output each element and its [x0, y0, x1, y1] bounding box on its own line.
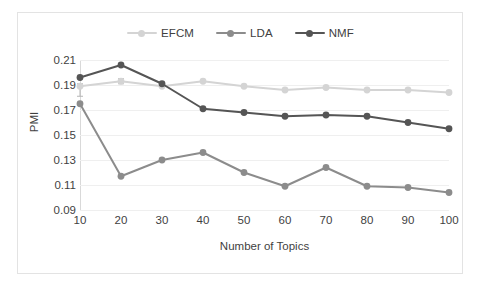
- legend-item-efcm[interactable]: EFCM: [127, 27, 194, 39]
- series-line: [80, 104, 449, 193]
- data-point: [241, 169, 248, 176]
- y-axis-tick-labels: 0.210.190.170.150.130.110.09: [34, 60, 76, 210]
- legend-item-nmf[interactable]: NMF: [295, 27, 354, 39]
- data-point: [405, 184, 412, 191]
- data-point: [200, 78, 207, 85]
- series-nmf: [77, 62, 453, 133]
- data-point: [159, 157, 166, 164]
- data-point: [364, 113, 371, 120]
- data-point: [241, 83, 248, 90]
- data-point: [200, 105, 207, 112]
- x-axis-tick-label: 60: [265, 214, 305, 226]
- data-point: [200, 149, 207, 156]
- x-axis-tick-label: 50: [224, 214, 264, 226]
- x-axis-tick-labels: 102030405060708090100: [80, 214, 449, 232]
- series-efcm: [77, 78, 453, 96]
- series-svg: [80, 60, 449, 210]
- x-axis-tick-label: 30: [142, 214, 182, 226]
- data-point: [405, 87, 412, 94]
- data-point: [118, 173, 125, 180]
- data-point: [405, 119, 412, 126]
- data-point: [323, 112, 330, 119]
- x-axis-tick-label: 70: [306, 214, 346, 226]
- data-point: [77, 74, 84, 81]
- y-axis-tick-label: 0.17: [38, 104, 76, 116]
- data-point: [159, 80, 166, 87]
- data-point: [364, 87, 371, 94]
- x-axis-tick-label: 80: [347, 214, 387, 226]
- pmi-line-chart: EFCMLDANMF 0.210.190.170.150.130.110.09 …: [0, 0, 481, 286]
- data-point: [118, 78, 125, 85]
- plot-area: [80, 60, 449, 210]
- data-point: [323, 164, 330, 171]
- x-axis-title: Number of Topics: [80, 240, 449, 252]
- gridline: [80, 210, 449, 211]
- series-line: [80, 81, 449, 92]
- legend-swatch-icon: [127, 28, 157, 38]
- data-point: [118, 62, 125, 69]
- data-point: [77, 100, 84, 107]
- x-axis-tick-label: 20: [101, 214, 141, 226]
- x-axis-tick-label: 10: [60, 214, 100, 226]
- x-axis-tick-label: 40: [183, 214, 223, 226]
- data-point: [323, 84, 330, 91]
- data-point: [241, 109, 248, 116]
- y-axis-title: PMI: [28, 112, 40, 132]
- y-axis-tick-label: 0.19: [38, 79, 76, 91]
- legend-label: EFCM: [161, 27, 194, 39]
- legend-swatch-icon: [295, 28, 325, 38]
- data-point: [282, 87, 289, 94]
- legend-swatch-icon: [216, 28, 246, 38]
- y-axis-tick-label: 0.11: [38, 179, 76, 191]
- data-point: [77, 83, 84, 90]
- data-point: [446, 125, 453, 132]
- y-axis-tick-label: 0.21: [38, 54, 76, 66]
- legend-label: NMF: [329, 27, 354, 39]
- x-axis-tick-label: 90: [388, 214, 428, 226]
- x-axis-tick-label: 100: [429, 214, 469, 226]
- data-point: [446, 89, 453, 96]
- data-point: [282, 113, 289, 120]
- chart-legend: EFCMLDANMF: [0, 24, 481, 42]
- data-point: [364, 183, 371, 190]
- data-point: [446, 189, 453, 196]
- series-line: [80, 65, 449, 129]
- data-point: [282, 183, 289, 190]
- y-axis-tick-label: 0.13: [38, 154, 76, 166]
- legend-item-lda[interactable]: LDA: [216, 27, 273, 39]
- y-axis-tick-label: 0.15: [38, 129, 76, 141]
- legend-label: LDA: [250, 27, 273, 39]
